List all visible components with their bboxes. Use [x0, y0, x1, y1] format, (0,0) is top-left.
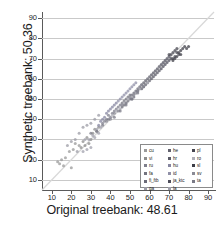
legend-label: fi_ftb — [149, 177, 158, 185]
legend-item-id[interactable]: id — [168, 170, 192, 178]
data-point — [181, 47, 184, 50]
data-point — [84, 138, 87, 141]
x-tick-label-70: 70 — [159, 194, 179, 202]
data-point — [62, 164, 65, 167]
data-point — [101, 124, 104, 127]
y-tick-label-20: 20 — [3, 156, 37, 164]
data-point — [175, 47, 178, 50]
data-point — [119, 110, 122, 113]
data-point — [66, 144, 69, 147]
legend-item-he[interactable]: he — [168, 147, 192, 155]
data-point — [146, 81, 149, 84]
data-point — [60, 158, 63, 161]
data-point — [74, 138, 77, 141]
y-tick-label-10: 10 — [3, 176, 37, 184]
data-point — [85, 124, 88, 127]
legend-label: sv — [197, 170, 201, 178]
data-point — [76, 150, 79, 153]
x-tick-label-60: 60 — [140, 194, 160, 202]
x-tick-label-40: 40 — [100, 194, 120, 202]
legend-label: ga — [149, 185, 154, 193]
legend-swatch-icon — [168, 157, 171, 160]
x-tick-label-10: 10 — [42, 194, 62, 202]
legend-item-cu[interactable]: cu — [144, 147, 168, 155]
legend-swatch-icon — [144, 172, 147, 175]
y-tick-label-80: 80 — [3, 34, 37, 42]
legend-item-fa[interactable]: fa — [144, 170, 168, 178]
series-hr — [150, 65, 161, 80]
data-point — [89, 146, 92, 149]
legend-swatch-icon — [144, 149, 147, 152]
data-point — [103, 116, 106, 119]
legend-swatch-icon — [192, 157, 195, 160]
legend-label: pl — [197, 147, 200, 155]
legend-label: id — [173, 170, 176, 178]
data-point — [74, 142, 77, 145]
legend-swatch-icon — [168, 172, 171, 175]
legend-label: hr — [173, 155, 177, 163]
legend-label: vi — [149, 155, 152, 163]
x-axis-title: Original treebank: 48.61 — [0, 203, 224, 217]
x-tick-label-50: 50 — [120, 194, 140, 202]
legend-item-la[interactable]: la — [168, 185, 192, 193]
scatter-plot-figure: Synthetic treebank: 50.36 Original treeb… — [0, 0, 224, 225]
legend-item-fi_ftb[interactable]: fi_ftb — [144, 177, 168, 185]
data-point — [121, 104, 124, 107]
y-tick-label-60: 60 — [3, 75, 37, 83]
legend-swatch-icon — [144, 157, 147, 160]
legend-item-hr[interactable]: hr — [168, 155, 192, 163]
data-point — [78, 132, 81, 135]
legend-column-1: cuvirufafi_ftbga — [144, 147, 168, 193]
legend-label: ro — [197, 155, 201, 163]
data-point — [70, 140, 73, 143]
data-point — [89, 122, 92, 125]
data-point — [82, 126, 85, 129]
legend-item-hu[interactable]: hu — [168, 162, 192, 170]
legend-swatch-icon — [144, 164, 147, 167]
data-point — [82, 150, 85, 153]
legend-label: sl — [197, 162, 200, 170]
data-point — [68, 150, 71, 153]
legend: cuvirufafi_ftbgahehrhuidja_ktclaplroslsv… — [140, 144, 213, 188]
data-point — [125, 104, 128, 107]
y-tick-label-40: 40 — [3, 115, 37, 123]
data-point — [87, 142, 90, 145]
data-point — [97, 114, 100, 117]
legend-item-vi[interactable]: vi — [144, 155, 168, 163]
data-point — [130, 97, 133, 100]
legend-item-ta[interactable]: ta — [192, 177, 216, 185]
y-tick-label-50: 50 — [3, 95, 37, 103]
series-sl — [171, 45, 190, 62]
y-tick-label-90: 90 — [3, 14, 37, 22]
legend-item-ro[interactable]: ro — [192, 155, 216, 163]
data-point — [113, 116, 116, 119]
legend-swatch-icon — [168, 164, 171, 167]
series-he — [140, 75, 151, 90]
legend-swatch-icon — [168, 187, 171, 190]
x-tick-label-30: 30 — [81, 194, 101, 202]
legend-swatch-icon — [168, 180, 171, 183]
legend-label: fa — [149, 170, 153, 178]
data-point — [72, 148, 75, 151]
legend-label: la — [173, 185, 176, 193]
legend-item-ga[interactable]: ga — [144, 185, 168, 193]
legend-item-ja_ktc[interactable]: ja_ktc — [168, 177, 192, 185]
legend-item-ru[interactable]: ru — [144, 162, 168, 170]
data-point — [70, 166, 73, 169]
legend-swatch-icon — [192, 180, 195, 183]
legend-item-sl[interactable]: sl — [192, 162, 216, 170]
legend-label: ru — [149, 162, 153, 170]
legend-swatch-icon — [192, 164, 195, 167]
data-point — [80, 146, 83, 149]
legend-item-pl[interactable]: pl — [192, 147, 216, 155]
legend-swatch-icon — [144, 180, 147, 183]
data-point — [179, 53, 182, 56]
data-point — [113, 112, 116, 115]
data-point — [89, 132, 92, 135]
data-point — [171, 59, 174, 62]
legend-label: cu — [149, 147, 154, 155]
data-point — [185, 47, 188, 50]
data-point — [134, 81, 137, 84]
legend-item-sv[interactable]: sv — [192, 170, 216, 178]
legend-label: hu — [173, 162, 178, 170]
